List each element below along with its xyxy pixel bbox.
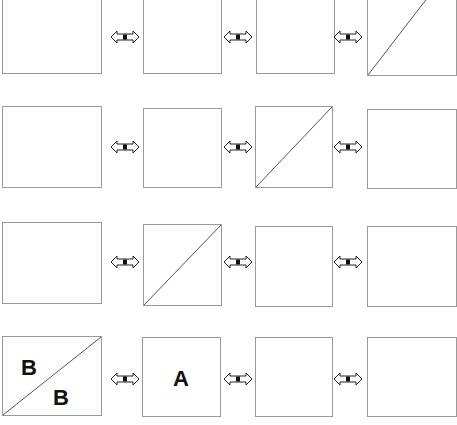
diagonal-line <box>3 337 101 415</box>
double-arrow-icon <box>223 30 253 44</box>
label-lower-right: B <box>53 387 69 409</box>
box-r1c2 <box>143 0 222 74</box>
double-arrow-icon <box>223 140 253 154</box>
diagonal-line <box>144 225 221 305</box>
double-arrow-icon <box>110 255 140 269</box>
double-arrow-icon <box>110 140 140 154</box>
double-arrow-icon <box>223 372 253 386</box>
diagonal-line <box>256 107 332 187</box>
box-r2c3 <box>255 106 333 188</box>
double-arrow-icon <box>333 30 363 44</box>
double-arrow-icon <box>333 140 363 154</box>
box-r4c3 <box>255 337 333 417</box>
double-arrow-icon <box>110 30 140 44</box>
box-r2c2 <box>143 108 222 188</box>
box-r3c1 <box>2 222 102 304</box>
box-r1c3 <box>256 0 335 74</box>
box-r2c4 <box>367 109 457 189</box>
box-r4c4 <box>367 337 457 417</box>
label-center: A <box>173 368 189 390</box>
box-r1c1 <box>2 0 102 74</box>
label-upper-left: B <box>21 357 37 379</box>
box-r3c3 <box>255 226 333 307</box>
box-r4c1: B B <box>2 336 102 416</box>
diagonal-line <box>368 0 456 75</box>
box-r3c4 <box>367 226 457 307</box>
double-arrow-icon <box>333 255 363 269</box>
double-arrow-icon <box>223 255 253 269</box>
box-r2c1 <box>2 106 102 188</box>
box-r1c4 <box>367 0 457 76</box>
box-r3c2 <box>143 224 222 306</box>
double-arrow-icon <box>333 372 363 386</box>
double-arrow-icon <box>110 372 140 386</box>
box-r4c2: A <box>142 337 221 417</box>
